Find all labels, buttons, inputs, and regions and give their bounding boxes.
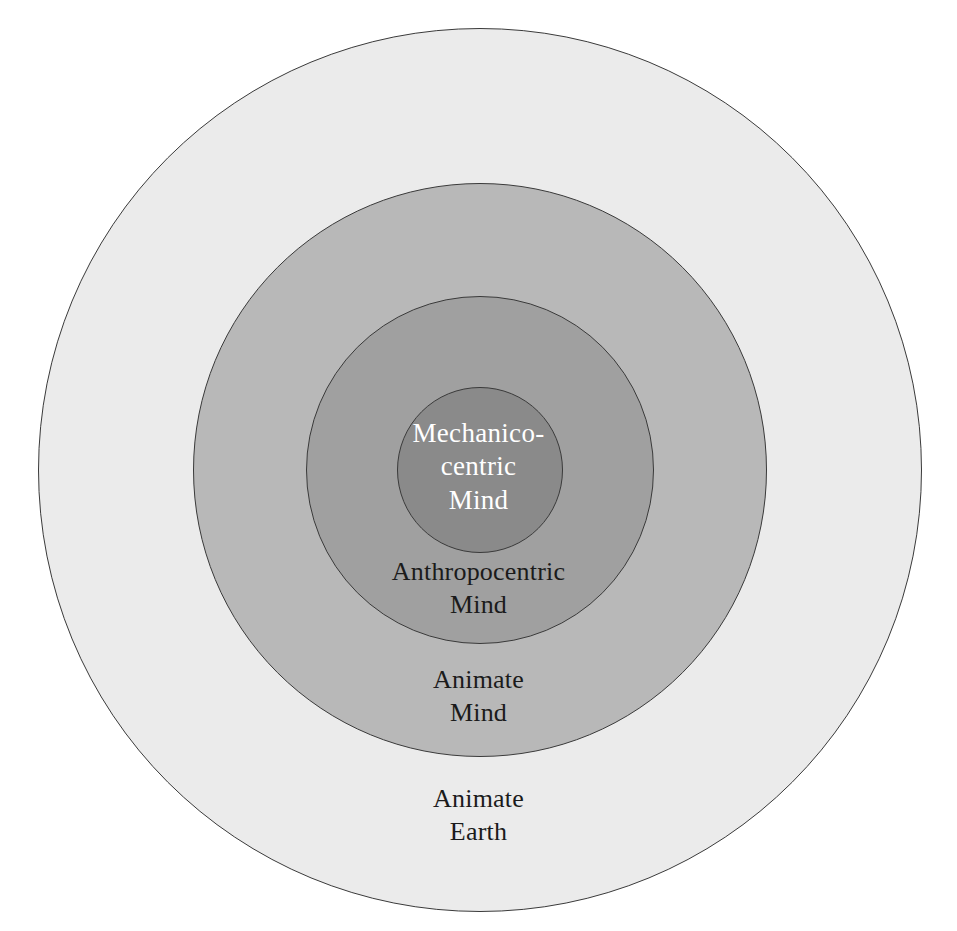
concentric-circles-diagram: Mechanico- centric Mind Anthropocentric … <box>0 0 957 931</box>
circle-mechanico-centric-mind <box>397 387 563 553</box>
